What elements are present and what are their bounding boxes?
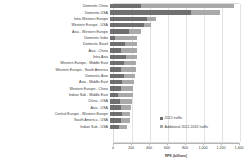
bar-segment-additional	[126, 55, 137, 59]
bar-segment-additional	[144, 23, 151, 27]
category-label: Domestic Asia	[0, 74, 110, 78]
x-axis-tick-label: 1,400	[235, 146, 244, 150]
bar-segment-2012	[110, 42, 125, 46]
bar-segment-2012	[110, 86, 121, 90]
legend-item-2012-traffic: 2012 traffic	[160, 116, 208, 120]
legend-swatch-icon-additional	[160, 125, 163, 128]
bar-segment-2012	[110, 118, 121, 122]
stacked-bar	[110, 55, 137, 59]
stacked-bar	[110, 29, 141, 33]
bar-segment-additional	[119, 125, 127, 129]
x-axis-tick	[203, 143, 204, 145]
category-label: Asia - China	[0, 49, 110, 53]
bar-segment-additional	[118, 93, 133, 97]
bar-segment-additional	[120, 99, 132, 103]
x-axis-tick	[239, 143, 240, 145]
bar-segment-additional	[121, 48, 137, 52]
category-label: China - USA	[0, 99, 110, 103]
stacked-bar	[110, 74, 135, 78]
bar-segment-2012	[110, 17, 147, 21]
bar-segment-2012	[110, 80, 122, 84]
bar-segment-additional	[122, 112, 131, 116]
x-axis-tick-label: 1,200	[217, 146, 226, 150]
category-label: Central Europe - Western Europe	[0, 112, 110, 116]
x-axis-tick-label: 200	[128, 146, 134, 150]
bar-segment-2012	[110, 10, 191, 14]
x-axis-tick-label: 800	[182, 146, 188, 150]
x-axis-tick	[131, 143, 132, 145]
stacked-bar	[110, 36, 137, 40]
bar-segment-2012	[110, 55, 126, 59]
stacked-bar	[110, 86, 133, 90]
chart-legend: 2012 traffic Additional 2012-2032 traffi…	[160, 116, 208, 133]
bar-segment-additional	[129, 29, 140, 33]
bar-segment-2012	[110, 67, 121, 71]
chart-row: Indian Sub - USA	[0, 124, 246, 130]
bar-segment-additional	[122, 80, 134, 84]
bar-segment-additional	[121, 118, 130, 122]
stacked-bar	[110, 23, 151, 27]
stacked-bar	[110, 105, 131, 109]
bar-segment-additional	[141, 4, 235, 8]
x-axis-tick	[113, 143, 114, 145]
bar-segment-2012	[110, 29, 129, 33]
bar-segment-additional	[191, 10, 220, 14]
x-axis-tick-label: 0	[112, 146, 114, 150]
category-label: Domestic Brazil	[0, 42, 110, 46]
category-label: Domestic China	[0, 4, 110, 8]
category-label: Asia - Middle East	[0, 80, 110, 84]
stacked-bar	[110, 67, 136, 71]
category-label: Asia - USA	[0, 106, 110, 110]
category-label: South America - USA	[0, 118, 110, 122]
x-axis-tick	[149, 143, 150, 145]
stacked-bar	[110, 17, 156, 21]
stacked-bar	[110, 125, 127, 129]
x-axis-tick-label: 1,000	[199, 146, 208, 150]
bar-segment-additional	[124, 74, 135, 78]
bar-segment-2012	[110, 61, 124, 65]
bar-segment-additional	[147, 17, 156, 21]
stacked-bar	[110, 42, 137, 46]
stacked-bar	[110, 112, 130, 116]
traffic-flows-bar-chart: Domestic ChinaDomestic USAIntra Western …	[0, 0, 246, 165]
bar-segment-2012	[110, 23, 144, 27]
category-label: Indian Sub - Middle East	[0, 93, 110, 97]
x-axis-tick-label: 400	[146, 146, 152, 150]
x-axis-title: RPK (billions)	[113, 154, 239, 158]
bar-segment-2012	[110, 99, 120, 103]
stacked-bar	[110, 48, 137, 52]
bar-rows: Domestic ChinaDomestic USAIntra Western …	[0, 3, 246, 130]
bar-segment-2012	[110, 125, 119, 129]
x-axis-tick-label: 600	[164, 146, 170, 150]
legend-label-base: 2012 traffic	[165, 116, 183, 120]
bar-segment-additional	[121, 105, 131, 109]
stacked-bar	[110, 118, 130, 122]
bar-segment-2012	[110, 74, 124, 78]
category-label: Intra Asia	[0, 55, 110, 59]
category-label: Western Europe - China	[0, 87, 110, 91]
bar-segment-additional	[121, 67, 136, 71]
stacked-bar	[110, 99, 132, 103]
legend-label-additional: Additional 2012-2032 traffic	[165, 125, 209, 129]
category-label: Western Europe - USA	[0, 23, 110, 27]
bar-segment-2012	[110, 105, 121, 109]
x-axis-tick	[221, 143, 222, 145]
bar-segment-2012	[110, 48, 121, 52]
legend-swatch-icon-base	[160, 117, 163, 120]
bar-segment-2012	[110, 112, 122, 116]
stacked-bar	[110, 10, 220, 14]
category-label: Indian Sub - USA	[0, 125, 110, 129]
bar-segment-additional	[125, 42, 137, 46]
stacked-bar	[110, 61, 136, 65]
category-label: Domestic India	[0, 36, 110, 40]
stacked-bar	[110, 80, 134, 84]
bar-segment-additional	[124, 61, 137, 65]
bar-segment-2012	[110, 93, 118, 97]
category-label: Western Europe - Middle East	[0, 61, 110, 65]
bar-segment-additional	[121, 86, 134, 90]
bar-segment-2012	[110, 4, 141, 8]
category-label: Asia - Western Europe	[0, 30, 110, 34]
stacked-bar	[110, 93, 133, 97]
stacked-bar	[110, 4, 234, 8]
category-label: Domestic USA	[0, 11, 110, 15]
